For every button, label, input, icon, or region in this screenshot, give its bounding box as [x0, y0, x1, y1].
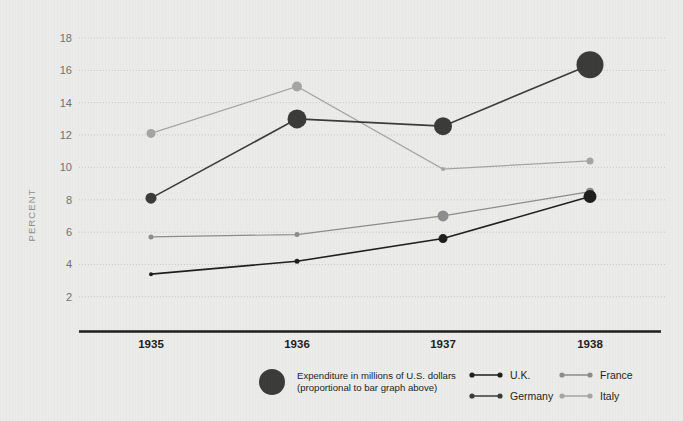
legend-label-germany: Germany [510, 390, 554, 402]
legend-marker-end-uk [497, 372, 502, 377]
y-tick-label: 2 [66, 291, 72, 303]
legend-marker-end-germany [497, 393, 502, 398]
data-point-uk-1935 [149, 272, 153, 276]
legend-marker-start-germany [469, 393, 474, 398]
gridlines [79, 38, 665, 297]
legend-marker-start-france [559, 372, 564, 377]
x-tick-label-1938: 1938 [577, 338, 603, 350]
series-lines [151, 65, 590, 274]
data-point-uk-1936 [295, 259, 300, 264]
y-tick-label: 4 [66, 258, 72, 270]
y-tick-label: 14 [60, 97, 72, 109]
y-axis-tick-labels: 18161412108642 [60, 32, 72, 303]
legend-marker-end-italy [587, 393, 592, 398]
series-line-germany [151, 65, 590, 198]
legend-expenditure-bubble-icon [259, 369, 285, 395]
legend-marker-start-italy [559, 393, 564, 398]
legend-note-line-2: (proportional to bar graph above) [297, 382, 437, 393]
data-point-uk-1937 [439, 234, 448, 243]
y-tick-label: 6 [66, 226, 72, 238]
series-line-italy [151, 87, 590, 169]
legend-entries: U.K.GermanyFranceItaly [469, 369, 632, 402]
data-point-germany-1936 [288, 109, 307, 128]
y-tick-label: 8 [66, 194, 72, 206]
data-point-italy-1936 [292, 82, 302, 92]
x-tick-label-1936: 1936 [284, 338, 310, 350]
legend-note-line-1: Expenditure in millions of U.S. dollars [297, 370, 456, 381]
legend-label-italy: Italy [600, 390, 620, 402]
chart-legend: Expenditure in millions of U.S. dollars … [259, 369, 633, 402]
legend-label-france: France [600, 369, 633, 381]
expenditure-percent-line-chart: 18161412108642 PERCENT 1935193619371938 … [0, 0, 683, 421]
y-tick-label: 18 [60, 32, 72, 44]
data-point-france-1936 [295, 232, 300, 237]
data-point-uk-1938 [584, 190, 597, 203]
legend-label-uk: U.K. [510, 369, 530, 381]
y-tick-label: 12 [60, 129, 72, 141]
data-point-italy-1938 [587, 157, 594, 164]
chart-page: 18161412108642 PERCENT 1935193619371938 … [0, 0, 683, 421]
data-point-germany-1937 [434, 117, 452, 135]
series-line-france [151, 192, 590, 237]
x-axis-tick-labels: 1935193619371938 [138, 338, 603, 350]
data-point-france-1937 [438, 210, 449, 221]
y-axis-title: PERCENT [26, 188, 37, 241]
data-point-italy-1935 [147, 129, 156, 138]
x-tick-label-1937: 1937 [430, 338, 456, 350]
legend-marker-start-uk [469, 372, 474, 377]
y-tick-label: 16 [60, 64, 72, 76]
y-tick-label: 10 [60, 161, 72, 173]
x-tick-label-1935: 1935 [138, 338, 164, 350]
legend-marker-end-france [587, 372, 592, 377]
data-point-germany-1938 [577, 51, 604, 78]
data-point-germany-1935 [146, 193, 157, 204]
data-point-italy-1937 [441, 167, 445, 171]
data-point-france-1935 [149, 234, 154, 239]
